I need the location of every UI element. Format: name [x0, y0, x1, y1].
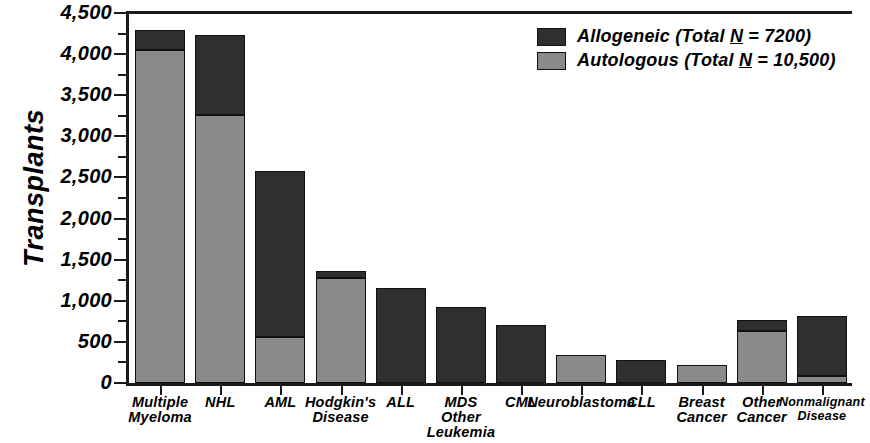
bar-segment-autologous [737, 331, 787, 383]
y-tick-mark [114, 300, 127, 302]
x-tick-label-line: Disease [282, 410, 400, 425]
x-tick-label-line: Disease [763, 409, 870, 423]
bar-segment-allogeneic [797, 316, 847, 376]
bar-segment-autologous [135, 50, 185, 383]
x-tick-label-line: Myeloma [101, 410, 219, 425]
y-tick-label: 4,000 [2, 42, 112, 65]
bar-segment-allogeneic [255, 171, 305, 337]
x-tick-mark [822, 386, 824, 395]
legend-item-allogeneic[interactable]: Allogeneic (Total N = 7200) [537, 26, 836, 47]
legend-label-allogeneic: Allogeneic (Total N = 7200) [577, 26, 811, 47]
legend-label-autologous: Autologous (Total N = 10,500) [577, 50, 836, 71]
y-minor-tick-mark [118, 238, 127, 240]
y-tick-mark [114, 259, 127, 261]
x-tick-label-line: Leukemia [402, 425, 520, 440]
legend-item-autologous[interactable]: Autologous (Total N = 10,500) [537, 50, 836, 71]
y-tick-label: 3,000 [2, 124, 112, 147]
y-tick-label: 1,500 [2, 248, 112, 271]
bar-nonmalignant-disease[interactable] [797, 316, 847, 383]
chart-legend: Allogeneic (Total N = 7200) Autologous (… [537, 26, 836, 71]
bar-mds-other-leukemia[interactable] [436, 307, 486, 383]
bar-segment-autologous [195, 115, 245, 383]
bar-breast-cancer[interactable] [677, 365, 727, 384]
y-tick-mark [114, 94, 127, 96]
y-minor-tick-mark [118, 156, 127, 158]
y-tick-mark [114, 135, 127, 137]
bar-segment-allogeneic [616, 360, 666, 383]
bar-segment-autologous [556, 355, 606, 383]
y-tick-label: 500 [2, 330, 112, 353]
bar-all[interactable] [376, 288, 426, 383]
y-tick-label: 2,000 [2, 207, 112, 230]
bar-segment-allogeneic [195, 35, 245, 115]
x-axis-line [126, 383, 852, 386]
y-minor-tick-mark [118, 197, 127, 199]
allogeneic-swatch-icon [537, 28, 566, 46]
y-tick-mark [114, 341, 127, 343]
bar-segment-autologous [316, 278, 366, 383]
y-tick-label: 1,000 [2, 289, 112, 312]
bar-segment-allogeneic [436, 307, 486, 383]
y-axis-tick-labels: 05001,0001,5002,0002,5003,0003,5004,0004… [0, 0, 112, 443]
y-minor-tick-mark [118, 74, 127, 76]
bar-multiple-myeloma[interactable] [135, 30, 185, 383]
bar-segment-allogeneic [316, 271, 366, 278]
x-axis-tick-labels: MultipleMyelomaNHLAMLHodgkin'sDiseaseALL… [0, 395, 854, 443]
y-tick-mark [114, 218, 127, 220]
x-tick-label-line: Other [402, 410, 520, 425]
bar-neuroblastoma[interactable] [556, 355, 606, 383]
y-minor-tick-mark [118, 361, 127, 363]
y-tick-label: 2,500 [2, 165, 112, 188]
y-tick-mark [114, 176, 127, 178]
autologous-swatch-icon [537, 52, 566, 70]
y-tick-label: 4,500 [2, 1, 112, 24]
y-tick-mark [114, 382, 127, 384]
bar-nhl[interactable] [195, 35, 245, 383]
y-tick-label: 0 [2, 371, 112, 394]
y-tick-mark [114, 12, 127, 14]
bar-segment-allogeneic [376, 288, 426, 383]
y-minor-tick-mark [118, 320, 127, 322]
bar-cll[interactable] [616, 360, 666, 383]
y-minor-tick-mark [118, 33, 127, 35]
y-minor-tick-mark [118, 279, 127, 281]
x-tick-label-line: Nonmalignant [763, 395, 870, 409]
y-tick-mark [114, 53, 127, 55]
x-tick-label: NonmalignantDisease [763, 395, 870, 423]
bar-segment-allogeneic [496, 325, 546, 383]
bar-segment-allogeneic [737, 320, 787, 331]
y-minor-tick-mark [118, 115, 127, 117]
bar-hodgkin-s-disease[interactable] [316, 271, 366, 383]
bar-segment-allogeneic [135, 30, 185, 50]
bar-other-cancer[interactable] [737, 320, 787, 383]
bar-segment-autologous [677, 365, 727, 384]
y-tick-label: 3,500 [2, 83, 112, 106]
bar-cml[interactable] [496, 325, 546, 383]
bar-segment-autologous [797, 376, 847, 383]
bar-segment-autologous [255, 337, 305, 383]
bar-aml[interactable] [255, 171, 305, 383]
